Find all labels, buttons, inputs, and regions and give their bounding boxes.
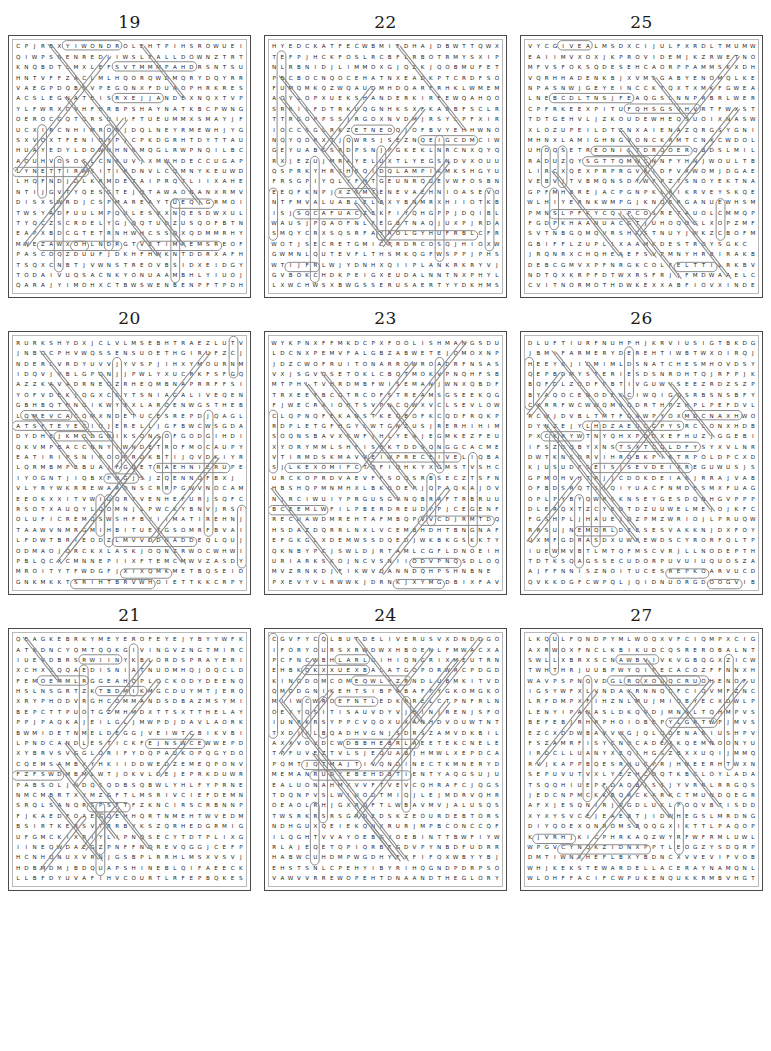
letter-cell: N: [303, 411, 311, 421]
letter-cell: I: [14, 473, 22, 483]
puzzle-22[interactable]: 22 HYEDCKATFECWBMIFDHAJDBWTTQWXTEFPJHCKF…: [264, 8, 507, 298]
letter-cell: Q: [361, 801, 369, 811]
letter-cell: D: [278, 822, 286, 832]
letter-cell: Y: [485, 167, 493, 177]
letter-cell: N: [435, 271, 443, 281]
letter-cell: L: [526, 707, 534, 717]
letter-cell: Y: [633, 853, 641, 863]
letter-row: GBIFFLZUPLIXAAMKDESTROYSGKC: [526, 239, 757, 249]
letter-cell: I: [485, 422, 493, 432]
letter-cell: M: [361, 63, 369, 73]
letter-cell: O: [468, 349, 476, 359]
letter-cell: A: [584, 219, 592, 229]
letter-cell: H: [386, 656, 394, 666]
letter-cell: G: [460, 874, 468, 884]
puzzle-21[interactable]: 21 QEAGKEBRKYMEYEROFEYEJYBYYWFKATKDNCYQM…: [8, 601, 251, 891]
letter-cell: V: [675, 104, 683, 114]
letter-cell: C: [708, 697, 716, 707]
puzzle-grid[interactable]: LKQULFQNDPYMLWOQXVFCIQMPXCIGAXRWOXFNCLKB…: [524, 632, 759, 887]
letter-cell: K: [633, 645, 641, 655]
letter-row: IUEWMVBTLMTQFMSCVRJLLNODEPTH: [526, 546, 757, 556]
puzzle-26[interactable]: 26 DLUFTIURFNUHPHJKRVIUSIGTBKDGJBMIFARME…: [520, 304, 763, 594]
letter-cell: R: [683, 577, 691, 587]
letter-cell: B: [55, 656, 63, 666]
letter-cell: L: [732, 442, 740, 452]
letter-cell: N: [113, 666, 121, 676]
letter-cell: F: [534, 484, 542, 494]
letter-cell: Q: [105, 380, 113, 390]
letter-cell: U: [220, 770, 228, 780]
puzzle-grid[interactable]: CGVFYCQLBUTDELIVERUSVXDNDDGOIFORYOURSXRW…: [268, 632, 503, 887]
puzzle-20[interactable]: 20 RURKSHYDXJCLVLMSEBHTRAEZLUTVJNBOCPHVW…: [8, 304, 251, 594]
puzzle-grid[interactable]: VYCGIVEALMSDXCIJULFXRDLTMUMWEAIIMVXOXJKP…: [524, 39, 759, 294]
letter-cell: X: [39, 229, 47, 239]
letter-cell: E: [485, 567, 493, 577]
puzzle-grid[interactable]: DLUFTIURFNUHPHJKRVIUSIGTBKDGJBMIFARMERYD…: [524, 335, 759, 590]
puzzle-grid[interactable]: QEAGKEBRKYMEYEROFEYEJYBYYWFKATKDNCYQMTQQ…: [12, 632, 247, 887]
letter-cell: M: [154, 156, 162, 166]
puzzle-25[interactable]: 25 VYCGIVEALMSDXCIJULFXRDLTMUMWEAIIMVXOX…: [520, 8, 763, 298]
puzzle-grid[interactable]: WYKPNXFFMKDCPXFOOLISHMANGSDULDCNXPEMVFAL…: [268, 335, 503, 590]
letter-cell: S: [72, 656, 80, 666]
letter-cell: D: [741, 422, 749, 432]
letter-cell: M: [80, 515, 88, 525]
letter-cell: M: [427, 577, 435, 587]
letter-cell: E: [377, 281, 385, 291]
letter-cell: G: [295, 832, 303, 842]
letter-cell: J: [204, 494, 212, 504]
letter-cell: Z: [724, 380, 732, 390]
puzzle-19[interactable]: 19 CPJRBXYIWONDROLEHTPIHSROWUEIQIWPSSENR…: [8, 8, 251, 298]
letter-row: AFXJESQNIRJVGDLUKLPOQVBTISDD: [526, 801, 757, 811]
letter-cell: F: [724, 484, 732, 494]
letter-cell: S: [377, 494, 385, 504]
letter-cell: I: [749, 432, 757, 442]
letter-cell: O: [270, 707, 278, 717]
letter-cell: Y: [551, 687, 559, 697]
letter-row: WLOHFFACIFCWPUKENQUKKRMBVHGT: [526, 874, 757, 884]
letter-cell: L: [88, 73, 96, 83]
letter-cell: B: [179, 697, 187, 707]
letter-cell: B: [220, 219, 228, 229]
letter-cell: Y: [386, 853, 394, 863]
letter-cell: W: [55, 239, 63, 249]
letter-cell: Q: [386, 167, 394, 177]
letter-cell: S: [592, 739, 600, 749]
letter-cell: J: [64, 863, 72, 873]
letter-cell: F: [600, 874, 608, 884]
letter-cell: V: [64, 749, 72, 759]
letter-cell: H: [600, 697, 608, 707]
letter-cell: Z: [576, 239, 584, 249]
letter-cell: E: [551, 718, 559, 728]
letter-cell: L: [328, 442, 336, 452]
puzzle-27[interactable]: 27 LKQULFQNDPYMLWOQXVFCIQMPXCIGAXRWOXFNC…: [520, 601, 763, 891]
letter-cell: R: [179, 239, 187, 249]
letter-cell: U: [22, 338, 30, 348]
letter-cell: O: [88, 146, 96, 156]
letter-cell: X: [724, 422, 732, 432]
letter-cell: E: [163, 125, 171, 135]
letter-cell: I: [113, 759, 121, 769]
letter-cell: S: [724, 390, 732, 400]
letter-cell: Q: [187, 229, 195, 239]
puzzle-grid[interactable]: RURKSHYDXJCLVLMSEBHTRAEZLUTVJNBOCPHVWQSS…: [12, 335, 247, 590]
letter-cell: P: [121, 453, 129, 463]
letter-cell: O: [179, 187, 187, 197]
letter-cell: E: [14, 494, 22, 504]
letter-row: RDPLETGFHGYLWTGNZUSJRERHIHIM: [270, 422, 501, 432]
letter-cell: Z: [344, 125, 352, 135]
letter-cell: O: [716, 156, 724, 166]
letter-cell: J: [80, 718, 88, 728]
letter-cell: W: [55, 484, 63, 494]
puzzle-24[interactable]: 24 CGVFYCQLBUTDELIVERUSVXDNDDGOIFORYOURS…: [264, 601, 507, 891]
letter-cell: Q: [402, 791, 410, 801]
letter-cell: M: [105, 177, 113, 187]
puzzle-grid[interactable]: HYEDCKATFECWBMIFDHAJDBWTTQWXTEFPJHCKFOSL…: [268, 39, 503, 294]
letter-cell: I: [336, 822, 344, 832]
letter-row: TSQQHIUEPFDAQBJSSJYVRRLRRGQS: [526, 780, 757, 790]
puzzle-23[interactable]: 23 WYKPNXFFMKDCPXFOOLISHMANGSDULDCNXPEMV…: [264, 304, 507, 594]
letter-cell: D: [443, 515, 451, 525]
letter-cell: J: [179, 453, 187, 463]
letter-cell: R: [278, 473, 286, 483]
letter-cell: A: [410, 874, 418, 884]
puzzle-grid[interactable]: CPJRBXYIWONDROLEHTPIHSROWUEIQIWPSSENREDL…: [12, 39, 247, 294]
